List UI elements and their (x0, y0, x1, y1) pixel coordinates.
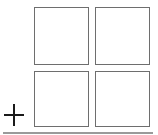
grid-cell-top-left (34, 7, 89, 65)
baseline-divider (3, 132, 153, 134)
grid-cell-bottom-right (95, 71, 150, 127)
plus-icon (4, 104, 24, 126)
grid-cell-bottom-left (34, 71, 89, 127)
grid-cell-top-right (95, 7, 150, 65)
